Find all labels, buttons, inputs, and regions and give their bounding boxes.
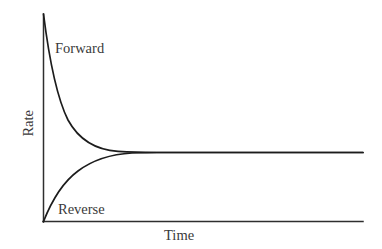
y-axis-label: Rate: [21, 83, 36, 110]
rate-vs-time-chart: Forward Reverse Time Rate: [0, 0, 382, 249]
forward-rate-curve: [44, 14, 364, 153]
forward-curve-annotation: Forward: [55, 41, 104, 56]
x-axis-label: Time: [164, 228, 194, 243]
y-axis-label-text: Rate: [21, 110, 36, 137]
reverse-curve-annotation: Reverse: [58, 202, 105, 217]
